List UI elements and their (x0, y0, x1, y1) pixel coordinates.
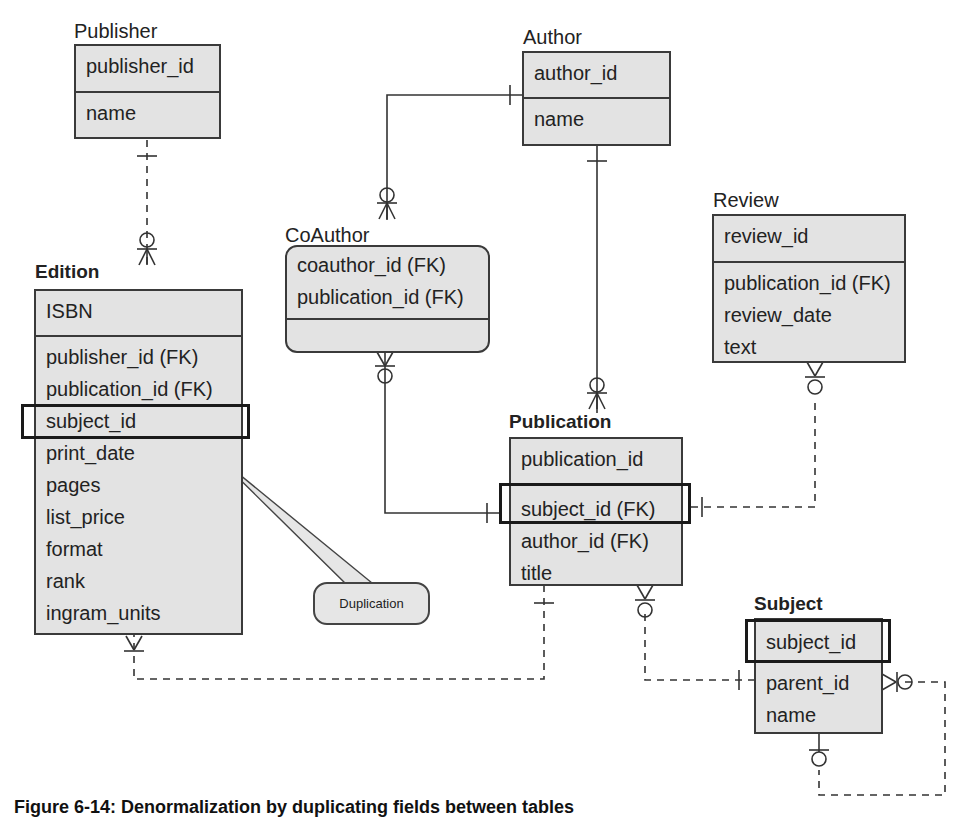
field-title: title (521, 557, 681, 589)
field-review-date: review_date (724, 299, 904, 331)
field-pages: pages (46, 469, 241, 501)
entity-review[interactable]: review_id publication_id (FK) review_dat… (712, 214, 906, 363)
rel-publication-review (691, 362, 825, 517)
field-review-id: review_id (724, 220, 904, 252)
field-list-price: list_price (46, 501, 241, 533)
entity-coauthor[interactable]: coauthor_id (FK) publication_id (FK) (285, 245, 490, 353)
highlight-subject-subject-id (745, 619, 891, 663)
entity-title-author: Author (523, 27, 582, 47)
entity-publisher[interactable]: publisher_id name (74, 44, 221, 139)
highlight-edition-subject-id (21, 404, 250, 439)
field-rank: rank (46, 565, 241, 597)
field-publication-id: publication_id (521, 443, 681, 475)
entity-edition[interactable]: ISBN publisher_id (FK) publication_id (F… (34, 289, 243, 635)
field-publication-author-id: author_id (FK) (521, 525, 681, 557)
field-author-id: author_id (534, 57, 669, 89)
field-isbn: ISBN (46, 295, 241, 327)
rel-author-coauthor (377, 85, 522, 220)
rel-publisher-edition (137, 140, 157, 265)
entity-title-subject: Subject (754, 594, 823, 614)
field-publisher-id: publisher_id (86, 50, 219, 82)
field-review-text: text (724, 331, 904, 363)
field-review-publication-id: publication_id (FK) (724, 267, 904, 299)
field-publisher-name: name (86, 97, 219, 129)
field-subject-name: name (766, 699, 881, 731)
rel-subject-publication (635, 585, 754, 690)
field-format: format (46, 533, 241, 565)
entity-title-coauthor: CoAuthor (285, 225, 370, 245)
field-coauthor-id: coauthor_id (FK) (297, 249, 488, 281)
figure-caption: Figure 6-14: Denormalization by duplicat… (14, 797, 574, 818)
field-coauthor-publication-id: publication_id (FK) (297, 281, 488, 313)
field-parent-id: parent_id (766, 667, 881, 699)
entity-author[interactable]: author_id name (522, 51, 671, 146)
rel-author-publication (587, 145, 607, 413)
field-ingram-units: ingram_units (46, 597, 241, 629)
duplication-callout: Duplication (313, 582, 430, 625)
entity-title-edition: Edition (35, 262, 99, 282)
field-edition-publication-id: publication_id (FK) (46, 373, 241, 405)
field-edition-publisher-id: publisher_id (FK) (46, 341, 241, 373)
entity-title-publication: Publication (509, 412, 611, 432)
field-print-date: print_date (46, 437, 241, 469)
field-author-name: name (534, 103, 669, 135)
highlight-publication-subject-id (499, 483, 691, 524)
entity-title-publisher: Publisher (74, 21, 157, 41)
entity-title-review: Review (713, 190, 779, 210)
rel-publication-coauthor (375, 352, 499, 523)
